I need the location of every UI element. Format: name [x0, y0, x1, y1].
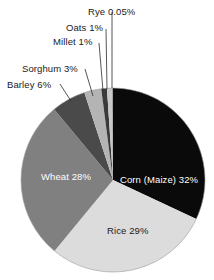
leader-line-barley	[60, 84, 71, 101]
slice-label-rice: Rice 29%	[107, 226, 148, 236]
slice-label-wheat: Wheat 28%	[41, 172, 91, 182]
pie-chart-canvas	[0, 0, 214, 280]
leader-line-oats	[106, 29, 107, 89]
callout-label-barley: Barley 6%	[7, 80, 51, 90]
leader-line-millet	[99, 43, 103, 91]
pie-chart-figure: Corn (Maize) 32% Rice 29% Wheat 28% Barl…	[0, 0, 214, 280]
callout-label-rye: Rye 0.05%	[88, 7, 135, 17]
callout-label-sorghum: Sorghum 3%	[22, 64, 78, 74]
callout-label-millet: Millet 1%	[53, 37, 92, 47]
slice-label-corn: Corn (Maize) 32%	[120, 175, 198, 185]
callout-label-oats: Oats 1%	[66, 23, 103, 33]
